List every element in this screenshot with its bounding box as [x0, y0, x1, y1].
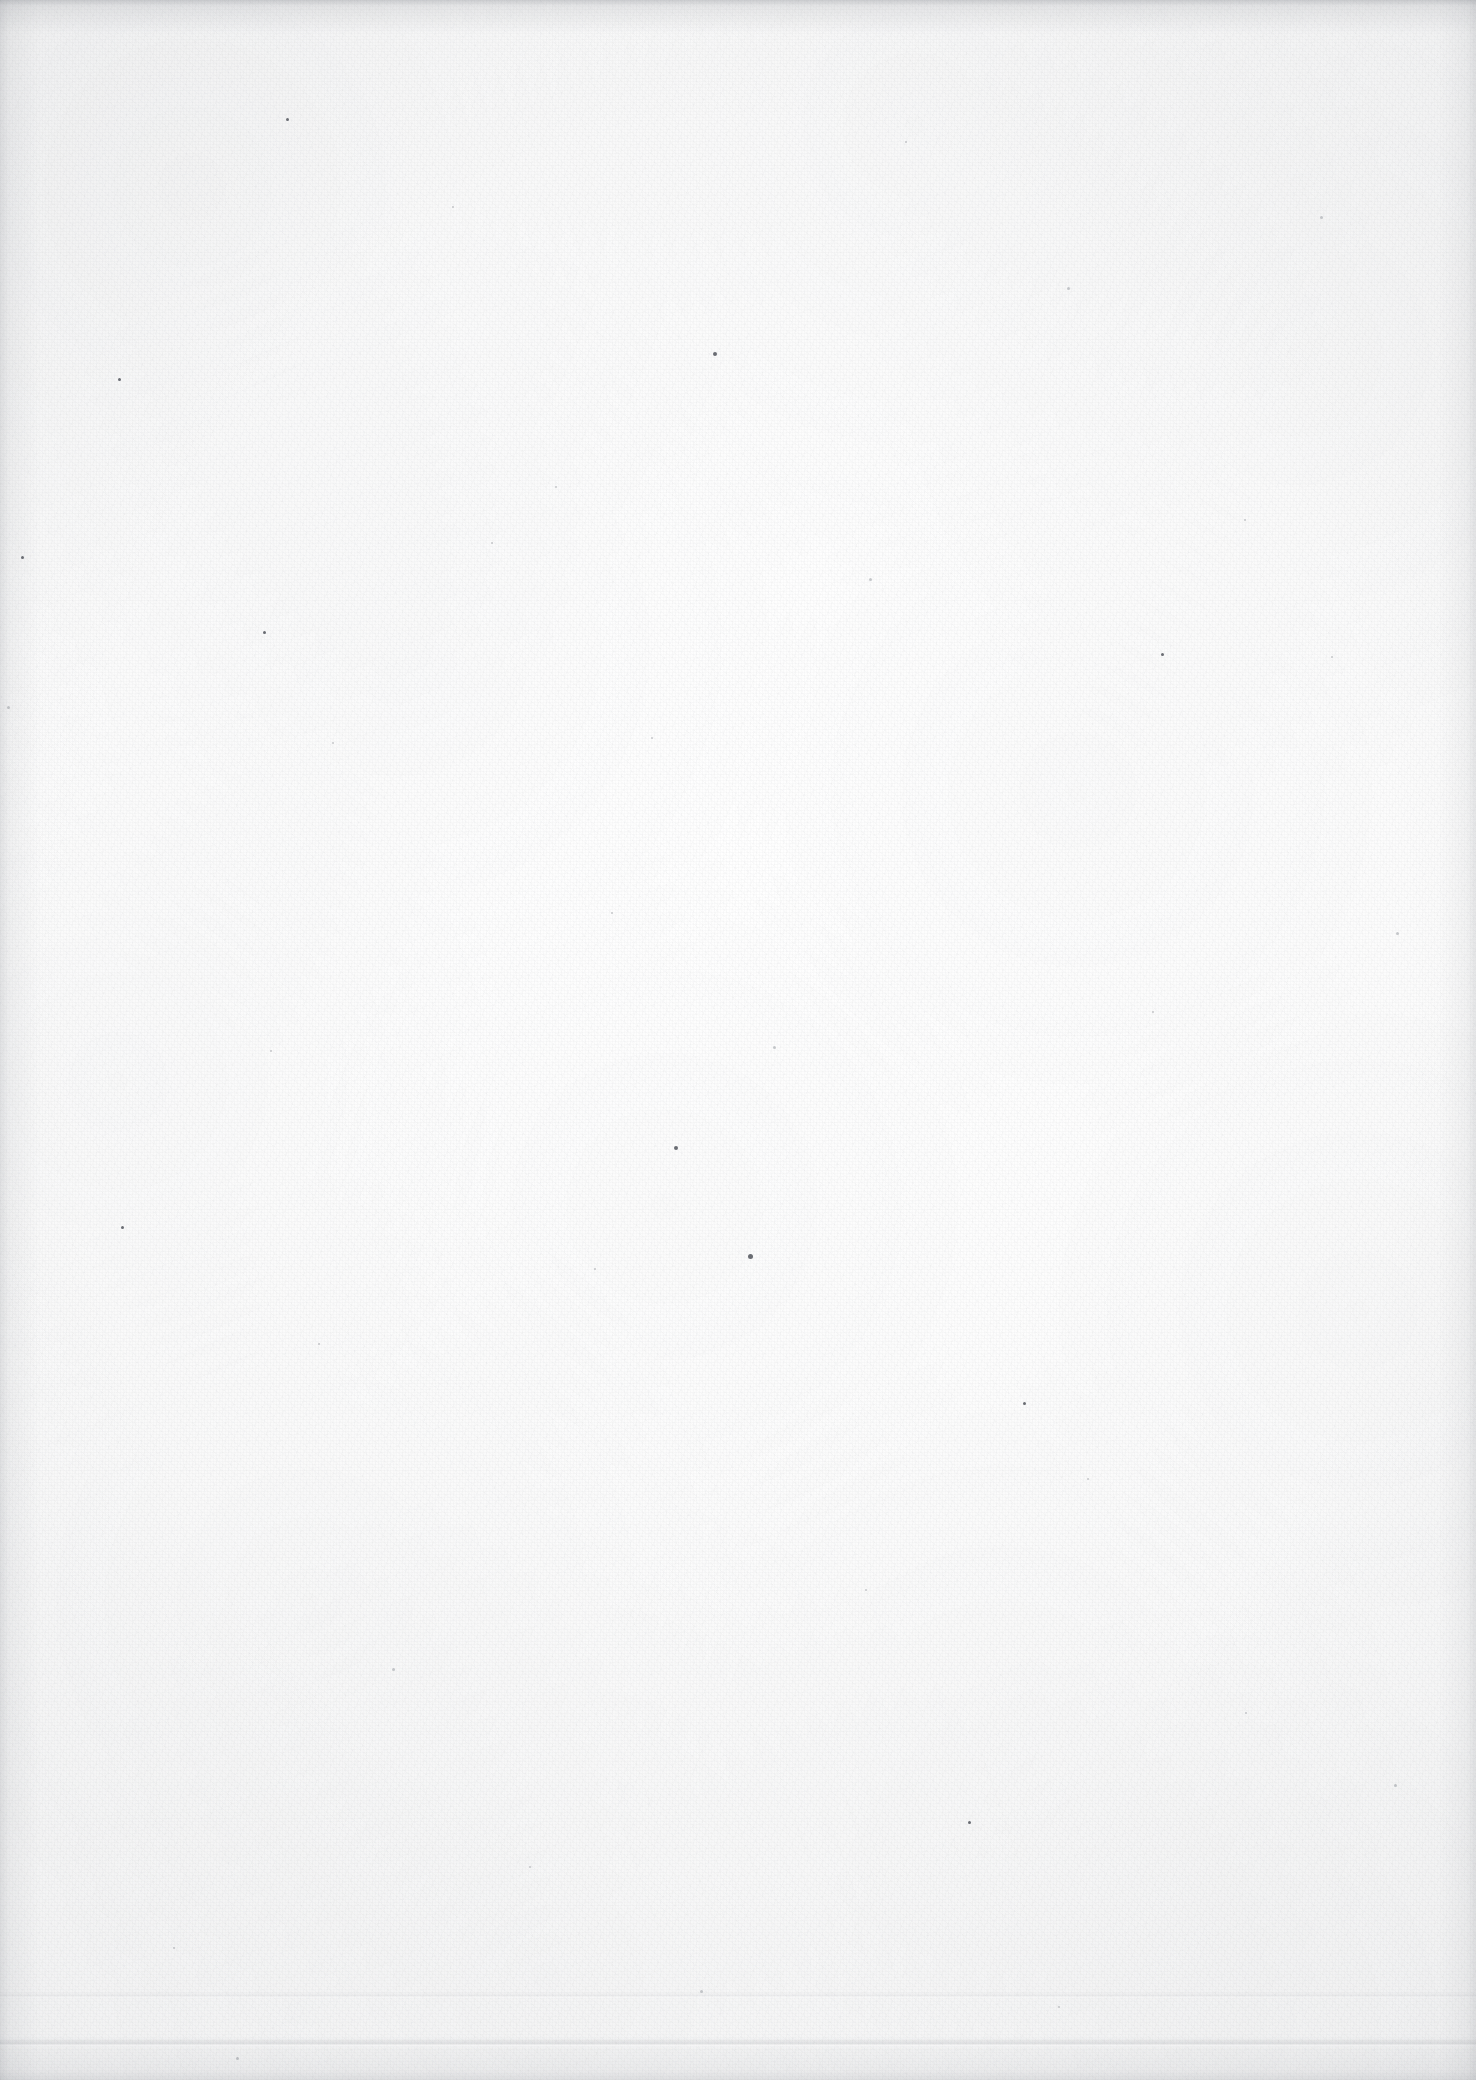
page-edge-shadow: [0, 0, 1476, 2080]
scanned-page: [0, 0, 1476, 2080]
